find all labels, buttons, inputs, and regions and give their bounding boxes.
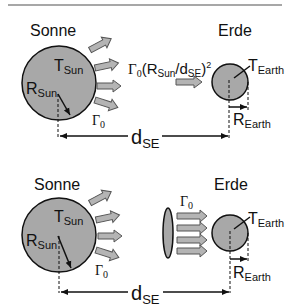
earth-body bbox=[212, 64, 248, 100]
gamma0-label: Γ0 bbox=[92, 113, 105, 130]
sun-earth-radiation-diagram: Sonne Erde TSun RSun Γ0 Γ0(RSun/dSE)2 TE… bbox=[0, 0, 294, 308]
parallel-beam-arrows bbox=[177, 210, 207, 257]
earth-label: Erde bbox=[214, 176, 248, 193]
gamma0-label: Γ0 bbox=[95, 263, 108, 280]
r-earth-label: REarth bbox=[233, 264, 271, 283]
ray-arrow bbox=[94, 57, 120, 74]
ray-arrow bbox=[94, 244, 121, 263]
d-se-label: dSE bbox=[131, 282, 160, 307]
r-earth-label: REarth bbox=[233, 111, 271, 130]
ray-arrow bbox=[87, 33, 114, 55]
t-earth-label: TEarth bbox=[248, 57, 284, 76]
beam-arrow bbox=[177, 222, 207, 234]
sun-label: Sonne bbox=[34, 176, 80, 193]
ray-arrow bbox=[98, 230, 122, 242]
ray-arrow bbox=[95, 209, 121, 226]
ray-arrow bbox=[93, 94, 120, 113]
flux-formula: Γ0(RSun/dSE)2 bbox=[128, 60, 211, 79]
beam-arrow bbox=[177, 234, 207, 246]
ray-arrow bbox=[87, 186, 114, 208]
gamma0-beam-label: Γ0 bbox=[180, 194, 193, 211]
beam-cross-section bbox=[163, 208, 173, 258]
beam-arrow bbox=[177, 210, 207, 222]
sun-label: Sonne bbox=[30, 22, 76, 39]
panel-bottom: Sonne Erde TSun RSun Γ0 Γ0 TEarth bbox=[22, 176, 284, 307]
panel-top: Sonne Erde TSun RSun Γ0 Γ0(RSun/dSE)2 TE… bbox=[22, 22, 284, 151]
earth-label: Erde bbox=[218, 22, 252, 39]
beam-arrow bbox=[177, 245, 207, 257]
t-earth-label: TEarth bbox=[248, 210, 284, 229]
d-se-label: dSE bbox=[131, 126, 160, 151]
ray-arrow bbox=[97, 80, 121, 92]
